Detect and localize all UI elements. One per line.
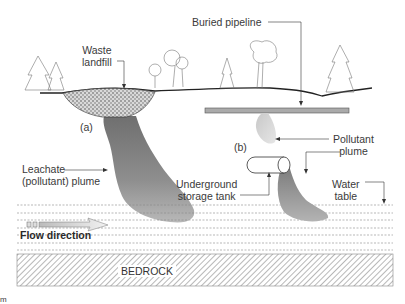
pollutant-plume-label: Pollutant plume (333, 133, 374, 157)
marker-a: (a) (80, 121, 93, 133)
pollutant-line-2: plume (333, 145, 374, 157)
pipeline-pollutant-plume (256, 113, 276, 144)
deciduous-tree-right (250, 41, 277, 89)
leachate-plume (103, 116, 194, 223)
conifer-tree-right (326, 45, 354, 92)
leachate-line-1: Leachate (22, 163, 100, 175)
underground-tank-label: Underground storage tank (176, 178, 237, 202)
pollutant-line-1: Pollutant (333, 133, 374, 145)
conifer-tree-left (25, 56, 64, 90)
bedrock-label: BEDROCK (118, 265, 176, 277)
water-table-label: Water table (332, 178, 360, 202)
underground-storage-tank (247, 157, 290, 173)
groundwater-contamination-diagram: Waste landfill Buried pipeline (a) (b) L… (0, 0, 405, 304)
buried-pipeline (205, 108, 349, 113)
corner-text-fragment: m (0, 296, 7, 304)
conifer-tree-small (220, 58, 234, 88)
bedrock-layer (17, 254, 393, 286)
water-table-line-2: table (332, 190, 360, 202)
buried-pipeline-label: Buried pipeline (192, 16, 261, 28)
flow-direction-label: Flow direction (20, 229, 91, 241)
leachate-line-2: (pollutant) plume (22, 175, 100, 187)
tank-line-2: storage tank (176, 190, 237, 202)
waste-landfill-line-2: landfill (82, 56, 112, 68)
water-table-lines (17, 205, 393, 250)
landfill-leader-line (117, 61, 124, 86)
waste-landfill-label: Waste landfill (82, 44, 112, 68)
waste-landfill (63, 88, 155, 117)
marker-b: (b) (234, 141, 247, 153)
waste-landfill-line-1: Waste (82, 44, 112, 56)
tank-line-1: Underground (176, 178, 237, 190)
deciduous-trees-center (149, 50, 188, 88)
water-table-line-1: Water (332, 178, 360, 190)
leachate-plume-label: Leachate (pollutant) plume (22, 163, 100, 187)
